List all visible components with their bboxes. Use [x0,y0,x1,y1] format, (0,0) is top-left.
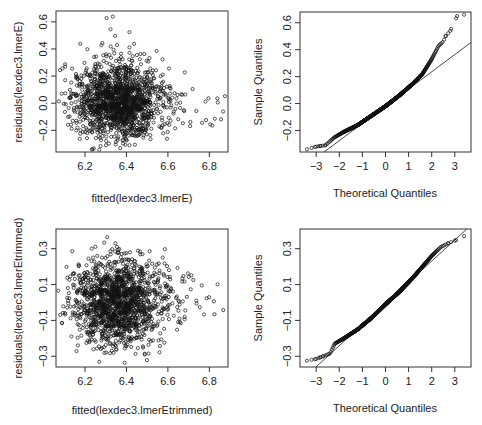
x-tick-label: 6.2 [77,160,92,172]
residuals-vs-fitted-plot: 6.26.46.66.8−0.20.00.20.40.6 fitted(lexd… [12,11,228,204]
y-axis-label: residuals(lexdec3.lmerE) [12,21,24,142]
y-tick-label: 0.1 [37,277,49,292]
y-tick-label: −0.2 [37,119,49,141]
x-tick-label: 2 [429,160,435,172]
x-tick-label: 6.4 [119,375,134,387]
y-tick-label: 0.4 [37,41,49,56]
y-tick-label: 0.2 [281,69,293,84]
residuals-vs-fitted-trimmed-plot: 6.26.46.66.8−0.3−0.10.10.3 fitted(lexdec… [12,218,228,416]
x-tick-label: −2 [333,375,346,387]
y-tick-label: −0.1 [37,310,49,332]
y-tick-label: 0.3 [37,241,49,256]
x-tick-label: 3 [452,375,458,387]
x-tick-label: −2 [333,160,346,172]
y-tick-label: 0.3 [281,241,293,256]
figure-canvas: 6.26.46.66.8−0.20.00.20.40.6 fitted(lexd… [0,0,482,425]
y-tick-label: −0.3 [281,345,293,367]
x-tick-label: −1 [356,375,369,387]
scatter-points [57,15,226,151]
x-tick-label: −3 [310,375,323,387]
x-tick-label: 3 [452,160,458,172]
y-tick-label: 0.0 [37,96,49,111]
x-tick-label: 6.8 [202,375,217,387]
y-tick-label: −0.1 [281,310,293,332]
x-axis-label: fitted(lexdec3.lmerEtrimmed) [72,404,213,416]
x-tick-label: 6.6 [160,375,175,387]
x-tick-label: 6.2 [77,375,92,387]
x-tick-label: 0 [382,160,388,172]
x-tick-label: 6.8 [202,160,217,172]
qq-plot-trimmed: −3−2−10123−0.3−0.10.10.3 Theoretical Qua… [252,229,471,414]
y-axis-label: residuals(lexdec3.lmerEtrimmed) [12,218,24,379]
y-tick-label: −0.2 [281,120,293,142]
y-tick-label: 0.6 [37,14,49,29]
y-tick-label: −0.3 [37,345,49,367]
y-tick-label: 0.6 [281,15,293,30]
axis-ticks: −3−2−10123−0.3−0.10.10.3 [281,241,458,387]
x-axis-label: fitted(lexdec3.lmerE) [92,192,193,204]
x-tick-label: 6.6 [160,160,175,172]
x-tick-label: −1 [356,160,369,172]
y-tick-label: 0.0 [281,96,293,111]
qq-points [305,13,471,152]
qq-plot: −3−2−10123−0.20.00.20.40.6 Theoretical Q… [252,12,471,199]
plot-frame [300,12,471,152]
y-axis-label: Sample Quantiles [252,38,264,125]
x-axis-label: Theoretical Quantiles [333,402,437,414]
x-tick-label: 1 [406,160,412,172]
x-tick-label: 1 [406,375,412,387]
x-tick-label: 6.4 [119,160,134,172]
x-tick-label: −3 [310,160,323,172]
qq-points [305,229,466,367]
x-tick-label: 2 [429,375,435,387]
x-tick-label: 0 [382,375,388,387]
y-tick-label: 0.1 [281,277,293,292]
y-tick-label: 0.4 [281,42,293,57]
x-axis-label: Theoretical Quantiles [333,187,437,199]
plot-frame [300,229,471,367]
y-tick-label: 0.2 [37,68,49,83]
scatter-points [57,236,225,365]
y-axis-label: Sample Quantiles [252,254,264,341]
axis-ticks: −3−2−10123−0.20.00.20.40.6 [281,15,458,172]
